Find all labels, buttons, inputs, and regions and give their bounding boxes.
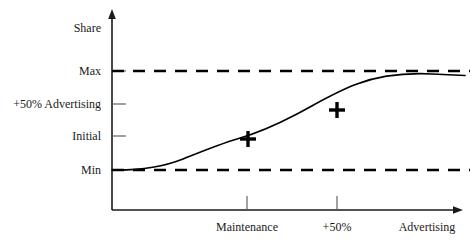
y-tick-label-min: Min (0, 164, 101, 176)
y-axis-title: Share (0, 22, 101, 34)
x-axis-arrowhead (453, 206, 463, 214)
y-axis-arrowhead (108, 9, 116, 19)
advertising-share-response-chart: Share Max +50% Advertising Initial Min M… (0, 0, 474, 247)
y-tick-label-max: Max (0, 65, 101, 77)
x-axis-title: Advertising (385, 221, 469, 233)
chart-canvas (0, 0, 474, 247)
y-tick-label-plus-fifty-advertising: +50% Advertising (0, 98, 101, 110)
x-tick-label-plus-fifty: +50% (302, 221, 372, 233)
y-tick-label-initial: Initial (0, 130, 101, 142)
plus-fifty-marker (329, 102, 345, 118)
x-tick-label-maintenance: Maintenance (187, 221, 307, 233)
share-response-curve (112, 74, 465, 170)
